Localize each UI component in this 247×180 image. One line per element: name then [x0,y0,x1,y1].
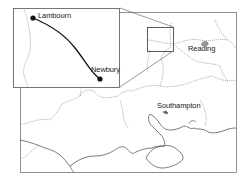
label-newbury: Newbury [91,65,120,74]
inset-connector-bottom [120,51,173,87]
lambourn-marker [30,15,35,20]
inset-source-rectangle [148,28,174,52]
label-lambourn: Lambourn [38,11,71,20]
coastline [20,114,236,172]
newbury-marker [97,76,102,81]
inset-frame [14,9,120,88]
label-reading: Reading [188,44,215,53]
inset-connector-top [120,8,173,27]
map-canvas [0,0,247,180]
label-southampton: Southampton [157,101,201,110]
southampton-urban-icon [163,111,168,114]
